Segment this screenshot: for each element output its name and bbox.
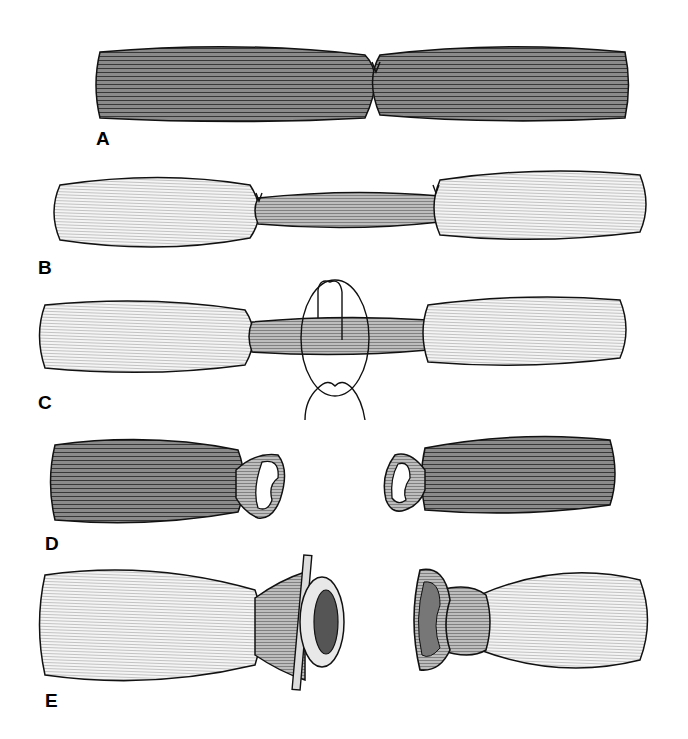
panel-label-a: A (96, 128, 110, 150)
panel-label-c: C (38, 392, 52, 414)
panel-a (96, 47, 629, 122)
anastomosis-illustration (0, 0, 688, 739)
panel-label-b: B (38, 257, 52, 279)
panel-c (40, 280, 627, 420)
panel-label-d: D (45, 533, 59, 555)
panel-b (54, 171, 646, 247)
panel-label-e: E (45, 690, 58, 712)
panel-d (51, 436, 616, 522)
panel-e (40, 555, 648, 690)
